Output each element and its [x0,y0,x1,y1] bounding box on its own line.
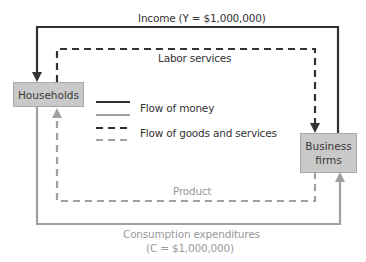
households-label: Households [18,88,79,102]
consumption-flow-line [37,107,340,224]
income-arrowhead-icon [32,72,42,82]
product-label: Product [173,185,211,197]
consumption-arrowhead-icon [335,172,345,182]
income-label: Income (Y = $1,000,000) [138,12,266,24]
business-firms-label-line2: firms [315,153,341,167]
product-arrowhead-icon [52,108,62,118]
business-firms-node: Business firms [300,133,357,173]
legend-goods-label: Flow of goods and services [140,127,277,139]
labor-arrowhead-icon [310,123,320,133]
consumption-label-line2: (C = $1,000,000) [146,242,234,254]
income-flow-line [37,27,338,133]
business-firms-label-line1: Business [305,139,351,153]
households-node: Households [13,82,84,107]
legend-money-label: Flow of money [140,102,214,114]
labor-services-label: Labor services [158,52,231,64]
consumption-label-line1: Consumption expenditures [123,228,260,240]
